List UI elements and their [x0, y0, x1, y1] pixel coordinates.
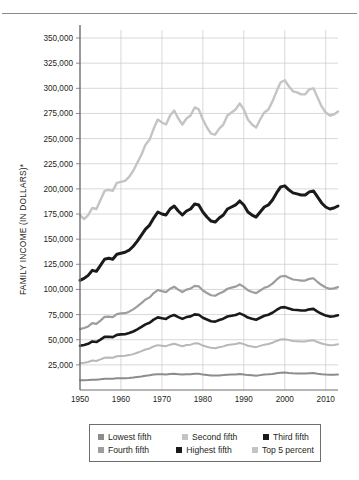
x-tick-label: 1950	[71, 395, 90, 404]
x-tick-label: 1970	[153, 395, 172, 404]
legend-label: Third fifth	[273, 432, 309, 442]
legend-row: Fourth fifth Highest fifth Top 5 percent	[98, 443, 314, 456]
legend-item-top-5-percent[interactable]: Top 5 percent	[252, 445, 314, 455]
x-tick-label: 1990	[235, 395, 254, 404]
legend-swatch-icon	[98, 434, 104, 440]
y-tick-label: 200,000	[43, 185, 73, 194]
series-line-lowest-fifth	[80, 373, 338, 381]
y-tick-label: 275,000	[43, 109, 73, 118]
y-tick-label: 225,000	[43, 160, 73, 169]
y-tick-label: 125,000	[43, 260, 73, 269]
grid-lines	[80, 30, 338, 390]
x-tick-label: 1960	[112, 395, 131, 404]
series-line-second-fifth	[80, 339, 338, 363]
figure: 25,00050,00075,000100,000125,000150,0001…	[0, 0, 359, 480]
y-tick-label: 350,000	[43, 34, 73, 43]
series-line-highest-fifth	[80, 186, 338, 281]
legend-swatch-icon	[263, 434, 269, 440]
legend-item-third-fifth[interactable]: Third fifth	[263, 432, 309, 442]
legend-swatch-icon	[176, 447, 182, 453]
y-tick-label: 50,000	[48, 336, 73, 345]
y-tick-label: 325,000	[43, 59, 73, 68]
legend-item-fourth-fifth[interactable]: Fourth fifth	[98, 445, 176, 455]
x-tick-label: 2010	[317, 395, 336, 404]
y-tick-label: 250,000	[43, 135, 73, 144]
y-tick-label: 75,000	[48, 311, 73, 320]
y-tick-label: 175,000	[43, 210, 73, 219]
series-line-top-5-percent	[80, 80, 338, 219]
legend-label: Lowest fifth	[108, 432, 151, 442]
y-tick-label: 150,000	[43, 235, 73, 244]
legend-item-lowest-fifth[interactable]: Lowest fifth	[98, 432, 182, 442]
y-axis-tick-labels: 25,00050,00075,000100,000125,000150,0001…	[43, 34, 73, 370]
legend-row: Lowest fifth Second fifth Third fifth	[98, 430, 314, 443]
chart-plot-area: 25,00050,00075,000100,000125,000150,0001…	[0, 0, 359, 415]
y-tick-label: 300,000	[43, 84, 73, 93]
line-chart-svg: 25,00050,00075,000100,000125,000150,0001…	[0, 0, 359, 415]
x-axis-tick-labels: 1950196019701980199020002010	[71, 395, 335, 404]
legend-label: Fourth fifth	[108, 445, 149, 455]
y-tick-label: 100,000	[43, 285, 73, 294]
legend-item-highest-fifth[interactable]: Highest fifth	[176, 445, 252, 455]
x-tick-label: 1980	[194, 395, 213, 404]
legend-label: Highest fifth	[186, 445, 231, 455]
y-tick-label: 25,000	[48, 361, 73, 370]
legend-swatch-icon	[182, 434, 188, 440]
legend-label: Top 5 percent	[262, 445, 314, 455]
chart-legend: Lowest fifth Second fifth Third fifth Fo…	[89, 424, 321, 462]
legend-swatch-icon	[98, 447, 104, 453]
legend-label: Second fifth	[192, 432, 237, 442]
y-axis-title: FAMILY INCOME (IN DOLLARS)*	[18, 163, 28, 295]
x-tick-label: 2000	[276, 395, 295, 404]
legend-item-second-fifth[interactable]: Second fifth	[182, 432, 263, 442]
data-series-lines	[80, 80, 338, 380]
legend-swatch-icon	[252, 447, 258, 453]
